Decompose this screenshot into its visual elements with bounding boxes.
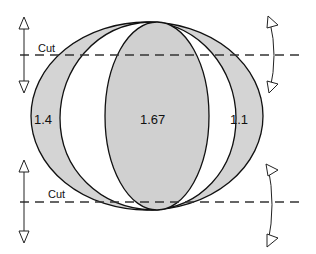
center-region-label: 1.67 xyxy=(140,112,165,127)
right-region-label: 1.1 xyxy=(230,112,248,127)
top-cut-label: Cut xyxy=(38,42,55,54)
right-bottom-curved-arrow-icon xyxy=(266,164,278,247)
lens-cut-diagram: Cut Cut 1.4 1.67 1.1 xyxy=(0,0,316,254)
bottom-cut-label: Cut xyxy=(48,188,65,200)
left-region-label: 1.4 xyxy=(34,112,52,127)
